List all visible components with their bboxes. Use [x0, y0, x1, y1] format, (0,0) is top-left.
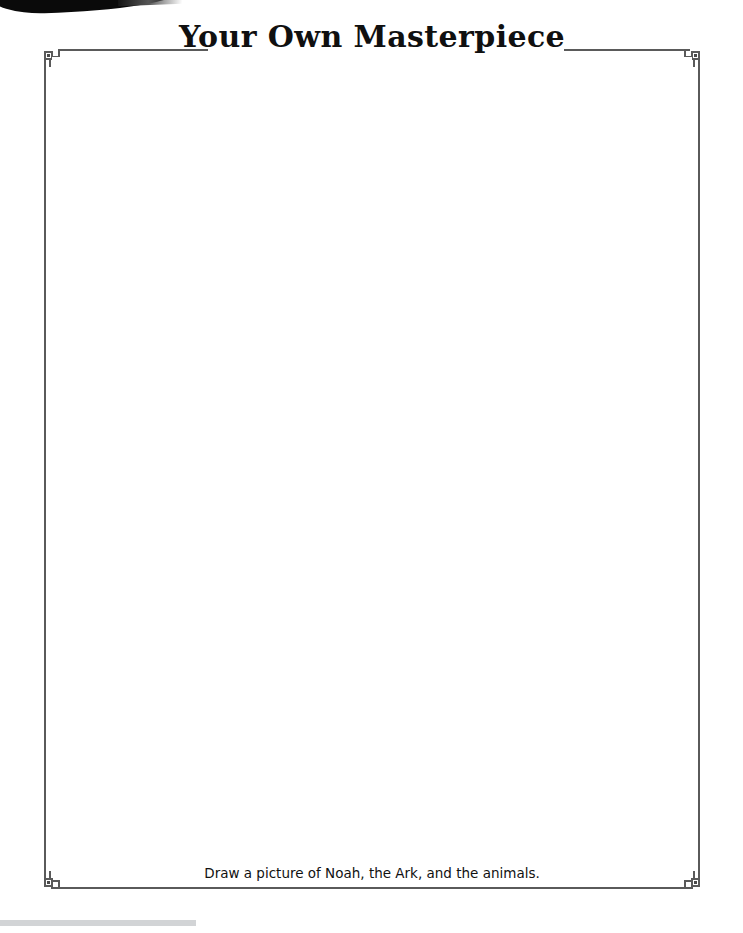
footer-gray-bar — [0, 920, 196, 926]
scan-edge-artifact-taper — [118, 0, 182, 6]
frame-line-bottom — [51, 887, 693, 889]
frame-line-right — [698, 56, 700, 882]
drawing-canvas-area[interactable] — [52, 57, 692, 857]
instruction-caption: Draw a picture of Noah, the Ark, and the… — [44, 865, 700, 882]
page-title: Your Own Masterpiece — [44, 20, 700, 54]
scan-edge-artifact — [0, 0, 180, 15]
decorative-frame: Your Own Masterpiece Draw a picture of N… — [44, 49, 700, 889]
worksheet-page: Your Own Masterpiece Draw a picture of N… — [0, 0, 743, 933]
frame-line-left — [44, 56, 46, 882]
